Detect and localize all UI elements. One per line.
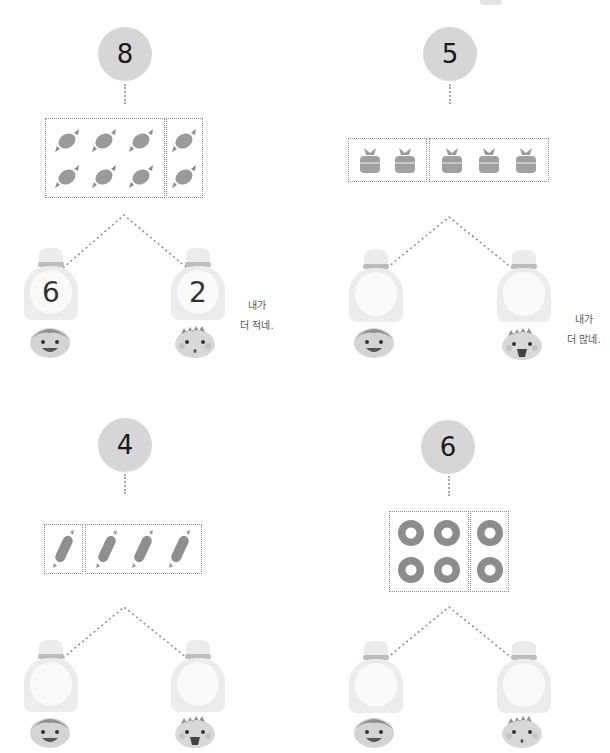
donut-icon (396, 555, 426, 585)
boy-smiling-face-icon (28, 323, 68, 357)
total-circle: 5 (423, 27, 477, 81)
right-answer-slot[interactable] (503, 272, 545, 316)
page-tab-edge (480, 0, 502, 5)
left-answer-slot[interactable] (355, 272, 397, 316)
candy-bag-icon (437, 145, 467, 175)
boy-surprised-face-icon (173, 323, 213, 357)
stick-candy-icon (49, 534, 79, 564)
speech-bubble: 내가 더 많네. (558, 310, 610, 350)
stick-candy-icon (165, 534, 195, 564)
right-answer-slot[interactable] (503, 663, 545, 707)
item-group-box (85, 524, 202, 574)
total-circle: 4 (98, 418, 152, 472)
right-bag (497, 641, 551, 713)
item-group-box (389, 511, 469, 592)
item-group-box (166, 118, 203, 198)
left-answer-slot[interactable]: 6 (30, 270, 72, 314)
wrapped-candy-icon (170, 161, 200, 191)
wrapped-candy-icon (127, 161, 157, 191)
right-bag: 2 (171, 248, 225, 320)
left-answer-slot[interactable] (30, 662, 72, 706)
left-bag (349, 250, 403, 322)
boy-surprised-face-icon (500, 713, 540, 747)
boy-shouting-face-icon (500, 325, 540, 359)
dotted-connector (124, 84, 126, 104)
item-group-box (429, 138, 549, 182)
total-circle: 6 (421, 420, 475, 474)
speech-bubble: 내가 더 적네. (232, 296, 282, 336)
right-bag (171, 640, 225, 712)
donut-icon (432, 555, 462, 585)
item-group-box (470, 511, 509, 592)
left-answer-slot[interactable] (355, 663, 397, 707)
boy-smiling-face-icon (28, 713, 68, 747)
right-answer-slot[interactable]: 2 (177, 270, 219, 314)
wrapped-candy-icon (90, 161, 120, 191)
right-bag (497, 250, 551, 322)
right-answer-slot[interactable] (177, 662, 219, 706)
wrapped-candy-icon (127, 125, 157, 155)
total-circle: 8 (98, 27, 152, 81)
wrapped-candy-icon (90, 125, 120, 155)
item-group-box (348, 138, 427, 182)
boy-shouting-face-icon (173, 713, 213, 747)
item-group-box (44, 524, 83, 574)
left-bag (349, 641, 403, 713)
wrapped-candy-icon (170, 125, 200, 155)
stick-candy-icon (128, 534, 158, 564)
candy-bag-icon (511, 145, 541, 175)
boy-smiling-face-icon (352, 323, 392, 357)
candy-bag-icon (355, 145, 385, 175)
wrapped-candy-icon (53, 125, 83, 155)
boy-smiling-face-icon (352, 713, 392, 747)
dotted-connector (449, 84, 451, 104)
candy-bag-icon (390, 145, 420, 175)
wrapped-candy-icon (53, 161, 83, 191)
item-group-box (45, 118, 165, 198)
donut-icon (475, 518, 505, 548)
left-bag: 6 (24, 248, 78, 320)
left-bag (24, 640, 78, 712)
donut-icon (396, 518, 426, 548)
dotted-connector (124, 474, 126, 494)
candy-bag-icon (474, 145, 504, 175)
dotted-connector (448, 476, 450, 496)
donut-icon (475, 555, 505, 585)
donut-icon (432, 518, 462, 548)
stick-candy-icon (92, 534, 122, 564)
